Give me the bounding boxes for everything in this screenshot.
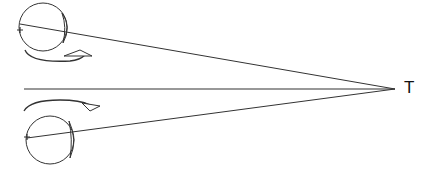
top-rotation-arrow-icon: [25, 50, 92, 61]
vergence-diagram: [0, 0, 437, 173]
bottom-line-of-sight: [27, 89, 395, 138]
target-label: T: [404, 78, 414, 98]
top-eye-icon: [17, 3, 67, 51]
bottom-rotation-arrow-icon: [24, 100, 100, 111]
bottom-eye-icon: [24, 116, 74, 164]
